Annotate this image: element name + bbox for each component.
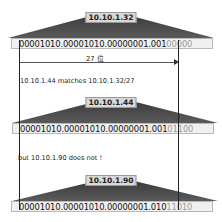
- host-bits-1: 00000: [166, 39, 192, 49]
- left-guide-line: [19, 40, 20, 210]
- binary-box-2: 00001010.00001010.00000001.00101100: [12, 123, 214, 134]
- ip-label-1: 10.10.1.32: [85, 12, 136, 23]
- host-bits-3: 11010: [166, 202, 192, 212]
- prefix-arrow-line: [20, 62, 175, 63]
- ip-label-2: 10.10.1.44: [85, 97, 136, 108]
- network-bits-1: 00001010.00001010.00000001.001: [19, 39, 166, 49]
- match-caption: 10.10.1.44 matches 10.10.1.32/27: [20, 77, 134, 85]
- binary-box-3: 00001010.00001010.00000001.01011010: [11, 201, 213, 212]
- mismatch-caption: but 10.10.1.90 does not !: [18, 154, 102, 162]
- binary-box-1: 00001010.00001010.00000001.00100000: [11, 38, 213, 49]
- ip-label-3: 10.10.1.90: [85, 175, 136, 186]
- prefix-boundary-line: [178, 40, 179, 210]
- network-bits-3: 00001010.00001010.00000001.010: [19, 202, 166, 212]
- network-bits-2: 00001010.00001010.00000001.001: [20, 124, 167, 134]
- host-bits-2: 01100: [167, 124, 193, 134]
